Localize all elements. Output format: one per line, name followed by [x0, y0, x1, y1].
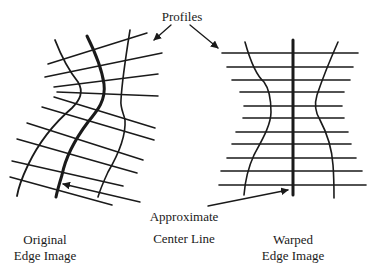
warped-right-edge	[315, 42, 338, 198]
center-line-label: Approximate Center Line	[131, 209, 237, 247]
original-right-edge	[98, 30, 130, 197]
warped-label-line2: Edge Image	[255, 248, 331, 264]
center-line-arrow-right	[208, 190, 288, 206]
warped-label-line1: Warped	[255, 232, 331, 248]
center-line-label-line1: Approximate	[131, 209, 237, 225]
original-edge-image	[10, 30, 162, 205]
original-label-line1: Original	[10, 232, 80, 248]
warped-edge-image	[208, 40, 366, 206]
original-edge-image-label: Original Edge Image	[10, 232, 80, 264]
profiles-label: Profiles	[160, 9, 204, 25]
original-label-line2: Edge Image	[10, 248, 80, 264]
profiles-arrow-left	[154, 25, 171, 40]
profiles-arrow-right	[190, 25, 218, 48]
center-line-label-line2: Center Line	[131, 231, 237, 247]
warped-edge-image-label: Warped Edge Image	[255, 232, 331, 264]
original-profiles	[10, 33, 162, 205]
